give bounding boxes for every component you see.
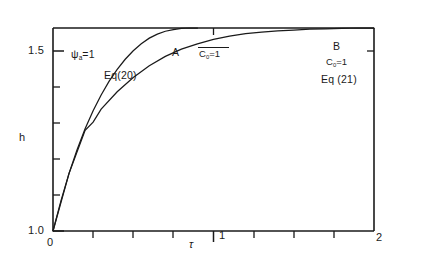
plot-vector-layer	[0, 0, 422, 263]
curve-b-equation-label: Eq (21)	[321, 74, 357, 85]
x-tick-label-2: 2	[376, 232, 382, 243]
x-axis-title: τ	[189, 239, 193, 250]
y-tick-label-upper: 1.5	[28, 45, 44, 56]
y-axis-minor-ticks	[53, 87, 60, 195]
y-axis-title: h	[19, 132, 25, 143]
psi-condition-annotation: ψa=1	[71, 49, 95, 61]
curve-b-c0-annotation: C0=1	[326, 57, 347, 69]
x-tick-label-0: 0	[47, 237, 53, 248]
y-axis-major-ticks	[53, 51, 64, 231]
c-symbol-b: C	[326, 56, 333, 67]
c-symbol-a: C	[199, 48, 206, 59]
curve-a-c0-annotation: C0=1	[199, 49, 220, 61]
c-equals-one-a: =1	[209, 48, 220, 59]
figure-canvas: 1.5 1.0 h 0 1 2 τ ψa=1 Eq(20) A C0=1 B C…	[0, 0, 422, 263]
c-equals-one-b: =1	[336, 56, 347, 67]
x-tick-label-1: 1	[219, 230, 225, 241]
psi-equals-one: =1	[82, 48, 94, 60]
curve-a-letter-label: A	[172, 47, 179, 58]
y-tick-label-lower: 1.0	[28, 225, 44, 236]
curve-b-letter-label: B	[333, 41, 340, 52]
curve-a-equation-label: Eq(20)	[104, 70, 137, 81]
psi-symbol: ψ	[71, 48, 79, 60]
